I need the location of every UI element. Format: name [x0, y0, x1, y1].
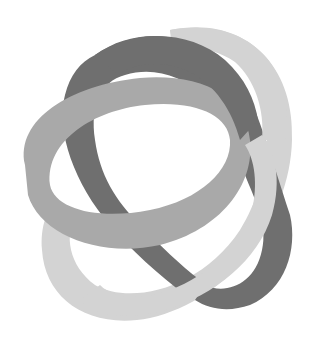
medium-band [24, 77, 251, 248]
interlocking-rings-logo-icon [0, 0, 317, 343]
logo-canvas [0, 0, 317, 343]
